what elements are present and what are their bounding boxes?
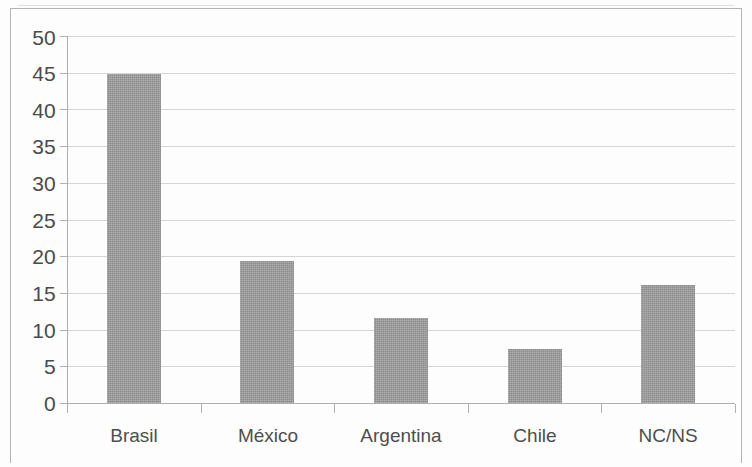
- scan-artifact: [0, 0, 752, 8]
- x-axis-label-nc-ns: NC/NS: [601, 426, 735, 445]
- x-axis-label-argentina: Argentina: [334, 426, 468, 445]
- x-axis-separator-3: [468, 404, 469, 413]
- x-axis-label-chile: Chile: [468, 426, 602, 445]
- y-tick-label-30: 30: [16, 173, 56, 194]
- x-axis-separator-0: [67, 404, 68, 413]
- x-axis-separator-4: [601, 404, 602, 413]
- y-tick-label-15: 15: [16, 283, 56, 304]
- y-tick-label-45: 45: [16, 63, 56, 84]
- x-axis-label-m-xico: México: [201, 426, 335, 445]
- y-tick-label-10: 10: [16, 320, 56, 341]
- bar-argentina: [374, 318, 428, 403]
- x-axis-label-brasil: Brasil: [67, 426, 201, 445]
- x-axis-line: [67, 403, 735, 404]
- bar-m-xico: [240, 261, 294, 403]
- y-tick-label-0: 0: [16, 393, 56, 414]
- y-tick-label-40: 40: [16, 100, 56, 121]
- plot-area: [67, 36, 735, 403]
- y-tick-label-50: 50: [16, 27, 56, 48]
- y-axis-tick-labels: 50 45 40 35 30 25 20 15 10 5 0: [8, 0, 56, 467]
- y-tick-label-5: 5: [16, 356, 56, 377]
- y-tick-label-20: 20: [16, 246, 56, 267]
- bar-chile: [508, 349, 562, 403]
- x-axis-separator-1: [201, 404, 202, 413]
- bar-nc-ns: [641, 285, 695, 403]
- y-tick-label-25: 25: [16, 210, 56, 231]
- bar-chart-figure: 50 45 40 35 30 25 20 15 10 5 0 BrasilMéx…: [0, 0, 752, 467]
- x-axis-separator-2: [334, 404, 335, 413]
- y-tick-label-35: 35: [16, 136, 56, 157]
- x-axis-separator-end: [735, 404, 736, 413]
- bar-brasil: [107, 74, 161, 403]
